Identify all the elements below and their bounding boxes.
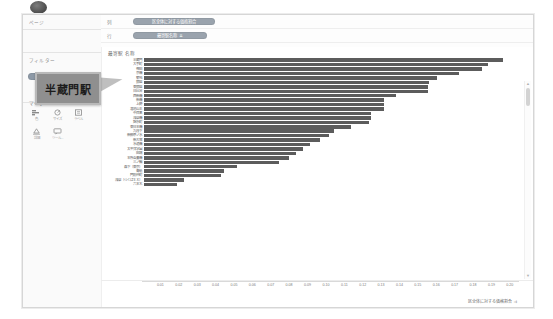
bar[interactable] (144, 134, 329, 138)
x-axis-title-text: 区全体に対する価格割合 (468, 299, 512, 304)
x-axis-tick: 0.03 (194, 283, 201, 287)
marks-card: マーク 色 サイズ (23, 99, 101, 141)
bar[interactable] (144, 90, 428, 94)
label-mark-icon (71, 108, 86, 117)
x-axis-tick: 0.04 (212, 283, 219, 287)
bar[interactable] (144, 129, 334, 133)
chart-area: 最寄駅 名称 半蔵門大手町神田京橋築地銀座東銀座日比谷西新橋新橋上野溜池山王中目… (101, 47, 533, 307)
sort-desc-icon[interactable]: ⇊ (179, 33, 183, 38)
marks-caption-size: サイズ (50, 117, 65, 122)
x-axis-tick: 0.18 (470, 283, 477, 287)
bar[interactable] (144, 125, 351, 129)
bar[interactable] (144, 103, 384, 107)
marks-caption-tooltip: ツール... (50, 136, 65, 141)
bar[interactable] (144, 156, 289, 160)
pages-shelf-label: ページ (23, 15, 101, 25)
bar[interactable] (144, 116, 371, 120)
marks-row-2: 詳細 ツール... (23, 122, 101, 141)
x-axis-tick: 0.09 (304, 283, 311, 287)
x-axis-tick: 0.05 (230, 283, 237, 287)
bar[interactable] (144, 152, 296, 156)
x-axis-tick: 0.06 (249, 283, 256, 287)
station-tooltip-text: 半蔵門駅 (45, 81, 91, 97)
tooltip-mark-icon (50, 127, 65, 136)
scroll-up-arrow-icon[interactable]: ▲ (525, 81, 531, 87)
tableau-worksheet-window: ページ フィルター 用途地域名称 マーク 色 (22, 14, 534, 308)
x-axis-tick: 0.11 (341, 283, 348, 287)
bar[interactable] (144, 183, 177, 187)
bar-track (144, 182, 519, 186)
plot-region: 半蔵門大手町神田京橋築地銀座東銀座日比谷西新橋新橋上野溜池山王中目黒浅草橋錦糸町… (102, 58, 519, 281)
x-axis-tick: 0.20 (506, 283, 513, 287)
bar-rows-container: 半蔵門大手町神田京橋築地銀座東銀座日比谷西新橋新橋上野溜池山王中目黒浅草橋錦糸町… (102, 58, 519, 281)
bar[interactable] (144, 67, 482, 71)
detail-mark-icon (29, 127, 44, 136)
columns-pill-kakaku-wariai[interactable]: 区全体に対する価格割合 (133, 18, 215, 25)
x-axis-tick: 0.07 (267, 283, 274, 287)
marks-button-size[interactable]: サイズ (50, 108, 65, 122)
marks-row-1: 色 サイズ ラベル (23, 106, 101, 122)
bar[interactable] (144, 138, 320, 142)
bar[interactable] (144, 169, 224, 173)
bar[interactable] (144, 174, 221, 178)
x-axis-tick: 0.14 (396, 283, 403, 287)
rows-shelf-label: 行 (107, 33, 133, 39)
scrollbar-thumb[interactable] (526, 88, 530, 106)
x-axis-tick: 0.08 (286, 283, 293, 287)
axis-separator (101, 280, 533, 281)
x-axis-tick: 0.10 (322, 283, 329, 287)
bar[interactable] (144, 121, 369, 125)
chart-title: 最寄駅 名称 (108, 50, 135, 56)
marks-caption-detail: 詳細 (29, 136, 44, 141)
bar-mark-icon (29, 108, 44, 117)
filters-shelf-label: フィルター (23, 53, 101, 63)
bar[interactable] (144, 143, 310, 147)
x-axis-sort-icon: ⇉ (514, 299, 517, 304)
bar-row[interactable]: 六本木 (102, 182, 519, 186)
marks-caption-color: 色 (29, 117, 44, 122)
rows-pill-station-name[interactable]: 最寄駅名称⇊ (133, 32, 207, 39)
vertical-scrollbar[interactable]: ▲ ▼ (524, 81, 531, 279)
bar[interactable] (144, 63, 488, 67)
bar[interactable] (144, 85, 428, 89)
marks-caption-label: ラベル (71, 117, 86, 122)
bar[interactable] (144, 107, 384, 111)
left-panel: ページ フィルター 用途地域名称 マーク 色 (23, 15, 102, 307)
marks-button-color[interactable]: 色 (29, 108, 44, 122)
bar[interactable] (144, 58, 503, 62)
bar[interactable] (144, 76, 437, 80)
bar[interactable] (144, 94, 396, 98)
columns-shelf[interactable]: 列 区全体に対する価格割合 (101, 15, 533, 29)
bar[interactable] (144, 147, 303, 151)
bar[interactable] (144, 81, 429, 85)
columns-pill-row: 区全体に対する価格割合 (133, 18, 215, 25)
shelf-container: 列 区全体に対する価格割合 行 最寄駅名称⇊ (101, 15, 533, 47)
x-axis-tick: 0.17 (451, 283, 458, 287)
dark-circle-badge (30, 1, 47, 14)
bar[interactable] (144, 178, 184, 182)
x-axis-line (142, 281, 519, 282)
bar[interactable] (144, 165, 237, 169)
x-axis-tick: 0.19 (488, 283, 495, 287)
x-axis-tick: 0.12 (359, 283, 366, 287)
bar[interactable] (144, 98, 384, 102)
x-axis-tick: 0.15 (414, 283, 421, 287)
x-axis-tick: 0.13 (378, 283, 385, 287)
size-mark-icon (50, 108, 65, 117)
bar[interactable] (144, 112, 371, 116)
x-axis: 0.010.020.030.040.050.060.070.080.090.10… (142, 281, 519, 293)
screenshot-root: ページ フィルター 用途地域名称 マーク 色 (0, 0, 553, 319)
station-tooltip-callout: 半蔵門駅 (35, 72, 101, 105)
marks-button-detail[interactable]: 詳細 (29, 127, 44, 141)
marks-button-tooltip[interactable]: ツール... (50, 127, 65, 141)
rows-shelf[interactable]: 行 最寄駅名称⇊ (101, 29, 533, 43)
bar[interactable] (144, 161, 279, 165)
scroll-down-arrow-icon[interactable]: ▼ (525, 273, 531, 279)
bar[interactable] (144, 72, 459, 76)
marks-button-label[interactable]: ラベル (71, 108, 86, 122)
columns-shelf-label: 列 (107, 19, 133, 25)
rows-pill-row: 最寄駅名称⇊ (133, 32, 207, 39)
x-axis-tick: 0.01 (157, 283, 164, 287)
x-axis-tick: 0.16 (433, 283, 440, 287)
x-axis-tick: 0.02 (175, 283, 182, 287)
